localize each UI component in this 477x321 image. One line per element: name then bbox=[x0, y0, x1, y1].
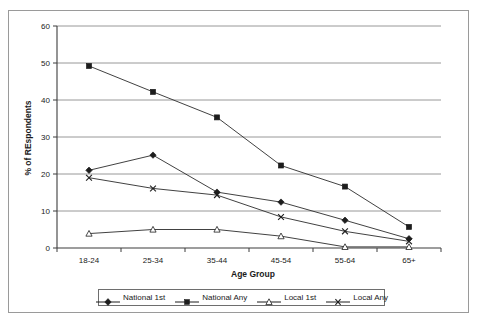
y-tick-label: 0 bbox=[46, 244, 51, 253]
chart-plot-region: 0102030405060 18-2425-3435-4445-5455-646… bbox=[0, 0, 477, 321]
chart-figure: 0102030405060 18-2425-3435-4445-5455-646… bbox=[0, 0, 477, 321]
series-line bbox=[89, 230, 409, 247]
x-tick-label: 18-24 bbox=[79, 256, 100, 265]
y-tick-label: 20 bbox=[41, 170, 50, 179]
x-tick-label: 55-64 bbox=[335, 256, 356, 265]
series-national-1st bbox=[86, 152, 412, 242]
legend-label: Local Any bbox=[353, 294, 388, 302]
y-tick-label: 10 bbox=[41, 207, 50, 216]
data-point-marker bbox=[342, 217, 348, 223]
series-line bbox=[89, 66, 409, 227]
open-triangle-icon bbox=[256, 293, 282, 303]
x-tick-label: 25-34 bbox=[143, 256, 164, 265]
gridlines-group bbox=[57, 26, 441, 211]
data-point-marker bbox=[215, 115, 220, 120]
y-axis-title: % of REspondents bbox=[23, 100, 33, 175]
y-tick-labels: 0102030405060 bbox=[41, 22, 50, 253]
legend-item-local-1st: Local 1st bbox=[256, 293, 316, 303]
legend-item-local-any: Local Any bbox=[325, 293, 388, 303]
legend-label: National Any bbox=[202, 294, 247, 302]
filled-square-icon bbox=[174, 293, 200, 303]
legend-item-national-1st: National 1st bbox=[95, 293, 165, 303]
chart-legend: National 1st National Any Local 1st bbox=[98, 289, 385, 306]
series-line bbox=[89, 178, 409, 242]
filled-diamond-icon bbox=[95, 293, 121, 303]
data-point-marker bbox=[151, 89, 156, 94]
x-tick-marks bbox=[57, 248, 441, 252]
data-point-marker bbox=[278, 199, 284, 205]
x-tick-label: 45-54 bbox=[271, 256, 292, 265]
y-tick-label: 50 bbox=[41, 59, 50, 68]
data-point-marker bbox=[343, 184, 348, 189]
data-series-group bbox=[86, 63, 412, 249]
legend-item-national-any: National Any bbox=[174, 293, 247, 303]
x-star-icon bbox=[325, 293, 351, 303]
x-tick-labels: 18-2425-3435-4445-5455-6465+ bbox=[79, 256, 416, 265]
x-axis-title: Age Group bbox=[231, 269, 275, 279]
y-tick-label: 60 bbox=[41, 22, 50, 31]
legend-label: Local 1st bbox=[284, 294, 316, 302]
series-national-any bbox=[87, 63, 412, 229]
data-point-marker bbox=[279, 163, 284, 168]
y-tick-label: 40 bbox=[41, 96, 50, 105]
data-point-marker bbox=[86, 167, 92, 173]
series-local-any bbox=[86, 175, 412, 244]
data-point-marker bbox=[407, 224, 412, 229]
data-point-marker bbox=[87, 63, 92, 68]
x-tick-label: 35-44 bbox=[207, 256, 228, 265]
x-tick-label: 65+ bbox=[402, 256, 416, 265]
y-tick-marks bbox=[53, 26, 57, 248]
legend-label: National 1st bbox=[123, 294, 165, 302]
line-chart-svg: 0102030405060 18-2425-3435-4445-5455-646… bbox=[0, 0, 477, 321]
data-point-marker bbox=[150, 152, 156, 158]
y-tick-label: 30 bbox=[41, 133, 50, 142]
series-local-1st bbox=[86, 226, 412, 249]
